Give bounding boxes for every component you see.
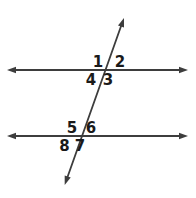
angle-label-6: 6: [86, 119, 96, 137]
bottom-line-left-arrowhead-icon: [7, 133, 16, 139]
angle-label-2: 2: [115, 53, 125, 71]
parallel-lines-transversal-figure: 1 2 3 4 5 6 7 8: [0, 0, 196, 198]
angle-label-5: 5: [67, 119, 77, 137]
angle-label-7: 7: [75, 137, 85, 155]
bottom-line-right-arrowhead-icon: [179, 133, 188, 139]
top-line-left-arrowhead-icon: [7, 67, 16, 73]
transversal-line: [67, 24, 122, 179]
angle-label-8: 8: [59, 137, 69, 155]
angle-label-1: 1: [93, 53, 103, 71]
geometry-diagram: 1 2 3 4 5 6 7 8: [0, 0, 196, 198]
top-line-right-arrowhead-icon: [179, 67, 188, 73]
transversal-bottom-arrowhead-icon: [62, 175, 71, 186]
transversal-top-arrowhead-icon: [118, 17, 127, 28]
angle-label-4: 4: [86, 71, 96, 89]
angle-label-3: 3: [103, 71, 113, 89]
